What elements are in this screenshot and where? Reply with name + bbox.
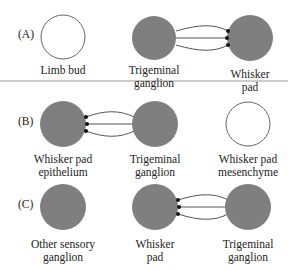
panel-c: [40, 184, 271, 230]
label-line: Whisker pad: [23, 153, 103, 166]
label-line: ganglion: [114, 77, 194, 90]
trigeminal-ganglion-circle: [132, 101, 178, 147]
panel-label-a: (A): [18, 28, 34, 40]
other-sensory-ganglion-circle: [40, 184, 86, 230]
limb-bud-circle: [41, 15, 85, 59]
label-trigeminal-ganglion: Trigeminal ganglion: [114, 64, 194, 90]
panel-label-b: (B): [18, 115, 33, 127]
diagram-canvas: [0, 0, 288, 271]
label-trigeminal-ganglion: Trigeminal ganglion: [208, 238, 288, 264]
label-line: Trigeminal: [114, 64, 194, 77]
label-line: Trigeminal: [208, 238, 288, 251]
label-line: epithelium: [23, 166, 103, 179]
whisker-pad-mesenchyme-circle: [226, 102, 270, 146]
label-whisker-pad-epithelium: Whisker pad epithelium: [23, 153, 103, 179]
whisker-pad-circle: [227, 15, 273, 61]
label-line: pad: [210, 81, 288, 94]
label-line: Whisker: [210, 68, 288, 81]
label-trigeminal-ganglion: Trigeminal ganglion: [115, 153, 195, 179]
label-other-sensory-ganglion: Other sensory ganglion: [18, 238, 108, 264]
panel-a: [41, 15, 273, 61]
label-line: pad: [115, 251, 195, 264]
label-whisker-pad: Whisker pad: [115, 238, 195, 264]
label-line: Whisker pad: [208, 153, 288, 166]
label-line: ganglion: [208, 251, 288, 264]
label-whisker-pad: Whisker pad: [210, 68, 288, 94]
label-line: mesenchyme: [208, 166, 288, 179]
whisker-pad-epithelium-circle: [40, 101, 86, 147]
panel-label-c: (C): [18, 198, 33, 210]
axon-bundle-a: [176, 26, 228, 51]
label-line: Whisker: [115, 238, 195, 251]
trigeminal-ganglion-circle: [132, 16, 176, 60]
trigeminal-ganglion-circle: [225, 184, 271, 230]
axon-bundle-c: [178, 195, 228, 220]
label-line: ganglion: [18, 251, 108, 264]
label-line: Other sensory: [18, 238, 108, 251]
label-limb-bud: Limb bud: [23, 64, 103, 77]
label-line: Trigeminal: [115, 153, 195, 166]
panel-b: [40, 101, 270, 147]
label-line: ganglion: [115, 166, 195, 179]
label-whisker-pad-mesenchyme: Whisker pad mesenchyme: [208, 153, 288, 179]
label-line: Limb bud: [40, 64, 85, 76]
whisker-pad-circle: [132, 184, 178, 230]
axon-bundle-b: [86, 112, 134, 137]
